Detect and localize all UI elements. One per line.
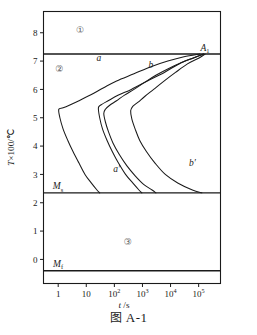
x-tick-label: 102 <box>108 287 120 299</box>
curve-label-a: a <box>96 53 101 63</box>
label-Ms: Ms <box>52 181 64 192</box>
region-label-2: ② <box>55 64 63 74</box>
figure-caption-id: A-1 <box>126 310 148 325</box>
plot-frame <box>44 12 221 284</box>
y-tick-label: 6 <box>33 85 38 95</box>
x-tick-label: 10 <box>82 289 92 299</box>
y-tick-label: 2 <box>33 198 38 208</box>
y-tick-label: 1 <box>33 226 38 236</box>
figure-caption: 图 A-1 <box>0 308 257 326</box>
label-A1: A1 <box>199 43 209 54</box>
region-label-3: ③ <box>124 237 132 247</box>
figure-caption-cn: 图 <box>110 311 123 325</box>
x-tick-label: 103 <box>136 287 148 299</box>
curve-label-b: b <box>149 60 154 70</box>
y-tick-label: 4 <box>33 141 38 151</box>
y-tick-label: 7 <box>33 56 38 66</box>
x-tick-label: 105 <box>193 287 205 299</box>
region-label-1: ① <box>76 25 84 35</box>
curve-b_prime <box>131 54 205 193</box>
y-tick-label: 8 <box>33 28 38 38</box>
curve-a <box>59 54 200 193</box>
ttt-diagram-chart: 012345678110102103104105T×100/℃t /sA1MsM… <box>0 0 257 335</box>
x-tick-label: 104 <box>165 287 177 299</box>
figure-container: 012345678110102103104105T×100/℃t /sA1MsM… <box>0 0 257 335</box>
y-tick-label: 5 <box>33 113 38 123</box>
x-tick-label: 1 <box>56 289 61 299</box>
y-axis-title: T×100/℃ <box>6 129 16 166</box>
label-Mf: Mf <box>52 259 64 270</box>
y-tick-label: 0 <box>33 255 38 265</box>
y-tick-label: 3 <box>33 170 38 180</box>
curve-label-b_prime: b′ <box>189 158 197 168</box>
curve-label-a_prime: a′ <box>113 164 121 174</box>
